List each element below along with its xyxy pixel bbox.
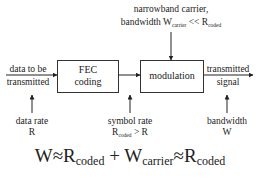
bandwidth-label-line2: W [223, 127, 232, 137]
carrier-label-line2: bandwidth Wcarrier << Rcoded [121, 17, 222, 28]
output-label-line1: transmitted [207, 64, 250, 74]
output-label-line2: signal [217, 77, 240, 87]
data-rate-label-line1: data rate [16, 116, 48, 126]
input-label-line2: transmitted [7, 77, 50, 87]
input-label-line1: data to be [10, 64, 47, 74]
symbol-rate-label-line1: symbol rate [108, 116, 153, 126]
fec-label-line1: FEC [79, 64, 98, 75]
fec-label-line2: coding [74, 76, 101, 87]
bandwidth-label-line1: bandwidth [207, 116, 247, 126]
modulation-label: modulation [149, 70, 195, 81]
carrier-label-line1: narrowband carrier, [134, 4, 209, 14]
data-rate-label-line2: R [29, 127, 36, 137]
bandwidth-equation: W≈Rcoded + Wcarrier≈Rcoded [35, 145, 226, 168]
carrier-label: narrowband carrier, bandwidth Wcarrier <… [121, 4, 222, 28]
fec-modulation-diagram: narrowband carrier, bandwidth Wcarrier <… [0, 0, 259, 178]
symbol-rate-label-line2: Rcoded > R [112, 127, 149, 138]
